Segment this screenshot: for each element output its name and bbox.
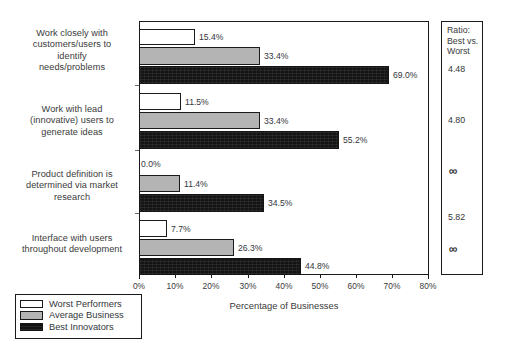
bar-average-business-3: [139, 175, 180, 192]
ratio-value-3: ∞: [449, 166, 457, 177]
x-tick-label-8: 80%: [413, 281, 443, 291]
x-tick-label-3: 30%: [233, 281, 263, 291]
ratio-panel: [441, 21, 483, 275]
ratio-panel-title-line1: Ratio:: [447, 25, 478, 36]
bar-worst-performers-1: [139, 29, 195, 45]
bar-value-average-2: 33.4%: [264, 116, 288, 126]
group-separator-tick: [135, 150, 139, 151]
x-tick-6: [356, 274, 357, 278]
category-label-1-line1: Work closely with: [14, 28, 130, 39]
legend-item-worst-performers: Worst Performers: [20, 298, 136, 310]
category-label-4-line2: throughout development: [8, 244, 136, 255]
legend-swatch-worst-performers: [20, 300, 43, 309]
bar-worst-performers-2: [139, 93, 181, 110]
x-tick-8: [428, 274, 429, 279]
ratio-value-5: ∞: [449, 244, 457, 255]
x-tick-1: [175, 274, 176, 278]
bar-value-worst-4: 7.7%: [171, 224, 191, 234]
bar-value-average-1: 33.4%: [264, 51, 288, 61]
category-label-1-line3: identify: [14, 51, 130, 62]
ratio-panel-title-line2: Best vs.: [447, 36, 478, 47]
ratio-value-2: 4.80: [448, 115, 465, 126]
x-tick-label-5: 50%: [305, 281, 335, 291]
legend-swatch-average-business: [20, 311, 43, 320]
legend-item-best-innovators: Best Innovators: [20, 321, 136, 333]
x-tick-label-2: 20%: [196, 281, 226, 291]
bar-average-business-1: [139, 47, 260, 65]
category-label-4-line1: Interface with users: [8, 233, 136, 244]
bar-value-worst-1: 15.4%: [199, 32, 223, 42]
legend-item-average-business: Average Business: [20, 310, 136, 322]
x-tick-0: [139, 274, 140, 279]
bar-best-innovators-3: [139, 194, 264, 212]
bar-value-best-3: 34.5%: [268, 198, 292, 208]
category-label-1: Work closely with customers/users to ide…: [14, 28, 130, 74]
category-label-3-line3: research: [10, 192, 134, 203]
bar-worst-performers-4: [139, 220, 167, 237]
legend-swatch-best-innovators: [20, 323, 43, 332]
bar-best-innovators-2: [139, 131, 339, 149]
x-tick-label-7: 70%: [377, 281, 407, 291]
x-tick-3: [248, 274, 249, 278]
chart-figure: Work closely with customers/users to ide…: [0, 0, 511, 345]
category-label-3: Product definition is determined via mar…: [10, 169, 134, 203]
x-tick-5: [320, 274, 321, 278]
bar-value-worst-3: 0.0%: [141, 159, 161, 169]
bar-value-average-4: 26.3%: [238, 243, 262, 253]
bar-value-average-3: 11.4%: [184, 179, 208, 189]
category-label-3-line1: Product definition is: [10, 169, 134, 180]
x-tick-2: [211, 274, 212, 278]
group-separator-tick: [135, 85, 139, 86]
ratio-value-1: 4.48: [448, 64, 465, 75]
category-label-1-line2: customers/users to: [14, 39, 130, 50]
x-tick-4: [284, 274, 285, 278]
legend-label-worst-performers: Worst Performers: [49, 299, 122, 309]
bar-average-business-4: [139, 239, 234, 256]
category-label-2-line1: Work with lead: [14, 104, 130, 115]
x-tick-7: [392, 274, 393, 278]
x-tick-label-6: 60%: [341, 281, 371, 291]
x-tick-label-4: 40%: [269, 281, 299, 291]
x-axis-title: Percentage of Businesses: [184, 300, 384, 311]
category-label-3-line2: determined via market: [10, 180, 134, 191]
legend-label-average-business: Average Business: [49, 310, 124, 320]
legend-label-best-innovators: Best Innovators: [49, 322, 114, 332]
bar-best-innovators-1: [139, 66, 389, 84]
category-label-2-line2: (innovative) users to: [14, 115, 130, 126]
x-tick-label-1: 10%: [160, 281, 190, 291]
x-tick-label-0: 0%: [124, 281, 154, 291]
category-label-1-line4: needs/problems: [14, 62, 130, 73]
category-label-2: Work with lead (innovative) users to gen…: [14, 104, 130, 138]
ratio-value-4: 5.82: [448, 212, 465, 223]
bar-value-best-4: 44.8%: [305, 261, 329, 271]
bar-value-worst-2: 11.5%: [185, 97, 209, 107]
ratio-panel-title-line3: Worst: [447, 46, 478, 57]
ratio-panel-title: Ratio: Best vs. Worst: [447, 25, 478, 57]
bar-average-business-2: [139, 112, 260, 129]
group-separator-tick: [135, 213, 139, 214]
bar-value-best-1: 69.0%: [393, 70, 417, 80]
chart-legend: Worst Performers Average Business Best I…: [15, 294, 142, 339]
category-label-2-line3: generate ideas: [14, 127, 130, 138]
bar-best-innovators-4: [139, 258, 301, 275]
category-label-4: Interface with users throughout developm…: [8, 233, 136, 256]
bar-value-best-2: 55.2%: [343, 135, 367, 145]
